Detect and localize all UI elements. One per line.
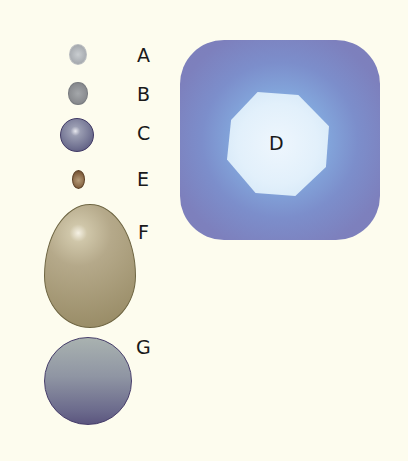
- shape-c: [60, 118, 94, 152]
- label-f: F: [138, 223, 149, 242]
- shape-b: [68, 82, 88, 105]
- shape-e: [72, 170, 85, 189]
- label-c: C: [137, 124, 150, 143]
- label-g: G: [136, 338, 151, 357]
- shape-f: [44, 204, 136, 328]
- label-a: A: [137, 46, 150, 65]
- label-d: D: [269, 134, 284, 153]
- shape-a: [69, 44, 87, 65]
- shape-g: [44, 337, 132, 425]
- label-b: B: [137, 85, 150, 104]
- label-e: E: [137, 170, 149, 189]
